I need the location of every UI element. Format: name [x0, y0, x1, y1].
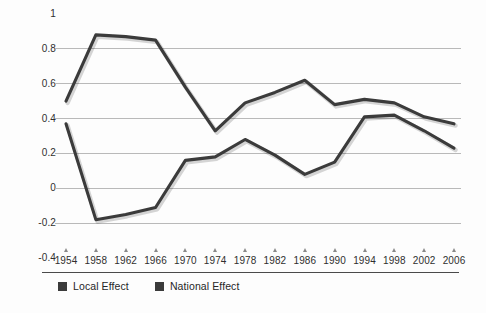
y-tick-label: 0.4	[0, 114, 56, 124]
x-tick-mark-icon	[243, 248, 247, 252]
gridlines	[55, 49, 461, 223]
legend-label: Local Effect	[73, 281, 129, 292]
x-tick-mark-icon	[64, 248, 68, 252]
series-line-national-effect	[66, 115, 454, 220]
x-tick-mark-icon	[452, 248, 456, 252]
y-tick-label: 0	[0, 183, 56, 193]
legend-item-local-effect[interactable]: Local Effect	[58, 281, 129, 292]
legend-swatch-icon	[155, 282, 164, 291]
y-tick-label: 1	[0, 9, 56, 19]
legend-label: National Effect	[170, 281, 240, 292]
x-tick-mark-icon	[333, 248, 337, 252]
legend-swatch-icon	[58, 282, 67, 291]
chart-plot-svg	[61, 14, 459, 258]
line-chart-figure: 10.80.60.40.20-0.2-0.4 19541958196219661…	[0, 0, 486, 313]
y-tick-label: 0.2	[0, 148, 56, 158]
series-lines	[66, 35, 456, 222]
series-line-shadow-2	[68, 117, 456, 222]
x-tick-mark-icon	[363, 248, 367, 252]
x-tick-mark-icon	[213, 248, 217, 252]
x-tick-label: 2006	[434, 255, 474, 266]
y-tick-label: 0.8	[0, 44, 56, 54]
axis-bottom-rule	[42, 272, 459, 273]
x-tick-mark-icon	[183, 248, 187, 252]
x-tick-group: 2006	[434, 248, 474, 266]
x-tick-mark-icon	[422, 248, 426, 252]
x-tick-mark-icon	[94, 248, 98, 252]
chart-legend: Local EffectNational Effect	[58, 281, 239, 292]
y-tick-label: 0.6	[0, 79, 56, 89]
x-tick-mark-icon	[154, 248, 158, 252]
y-tick-label: -0.2	[0, 218, 56, 228]
x-tick-mark-icon	[273, 248, 277, 252]
legend-item-national-effect[interactable]: National Effect	[155, 281, 240, 292]
plot-area	[61, 14, 459, 258]
x-axis: 1954195819621966197019741978198219861990…	[61, 248, 465, 272]
y-axis: 10.80.60.40.20-0.2-0.4	[0, 14, 56, 258]
x-tick-mark-icon	[303, 248, 307, 252]
x-tick-mark-icon	[392, 248, 396, 252]
x-tick-mark-icon	[124, 248, 128, 252]
